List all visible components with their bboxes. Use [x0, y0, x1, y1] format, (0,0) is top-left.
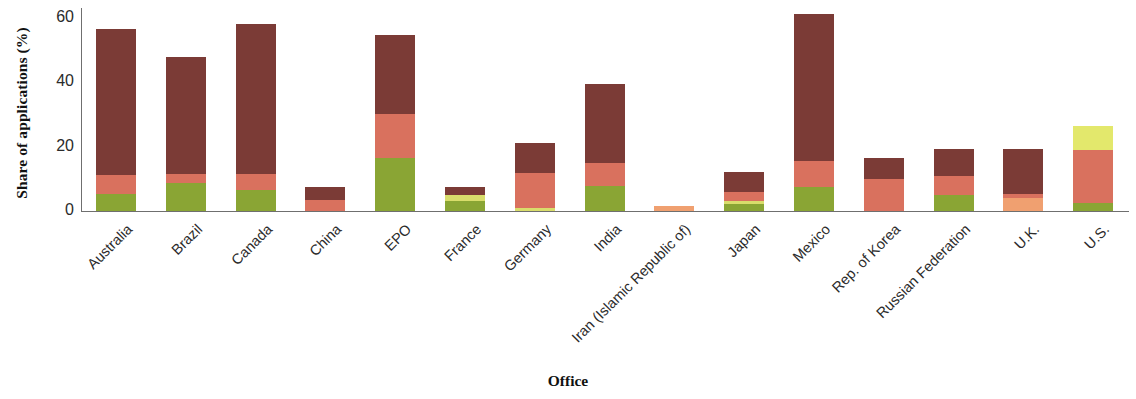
bar-iran-islamic-republic-of[interactable]	[654, 206, 694, 211]
stacked-bar-chart: Share of applications (%) 0204060 Austra…	[0, 0, 1136, 399]
bar-segment-4	[585, 163, 625, 186]
bar-segment-1	[166, 183, 206, 211]
bar-segment-5	[166, 57, 206, 174]
bar-segment-4	[375, 114, 415, 158]
x-tick-label: China	[307, 221, 345, 259]
x-axis-line	[81, 211, 1129, 212]
bar-segment-5	[934, 149, 974, 175]
bar-segment-5	[515, 143, 555, 173]
bar-germany[interactable]	[515, 143, 555, 211]
bar-segment-5	[864, 158, 904, 179]
x-tick-label: France	[441, 221, 484, 264]
bar-segment-1	[724, 204, 764, 211]
x-tick-label: EPO	[381, 221, 414, 254]
bar-segment-1	[585, 186, 625, 211]
bar-segment-4	[934, 176, 974, 195]
bar-segment-4	[864, 179, 904, 211]
bar-rep-of-korea[interactable]	[864, 158, 904, 211]
bar-u-k[interactable]	[1003, 149, 1043, 211]
bar-russian-federation[interactable]	[934, 149, 974, 211]
x-tick-label: Australia	[84, 221, 135, 272]
bar-segment-1	[236, 190, 276, 211]
y-tick-label: 60	[34, 9, 74, 25]
bar-canada[interactable]	[236, 24, 276, 211]
bar-japan[interactable]	[724, 172, 764, 211]
x-tick-label: Brazil	[168, 221, 205, 258]
bar-u-s[interactable]	[1073, 126, 1113, 211]
x-tick-label: U.K.	[1011, 221, 1042, 252]
x-tick-label: Mexico	[789, 221, 833, 265]
bar-france[interactable]	[445, 187, 485, 211]
bar-epo[interactable]	[375, 35, 415, 211]
x-tick-label: U.S.	[1081, 221, 1112, 252]
bar-segment-2	[654, 206, 694, 211]
x-tick-label: Rep. of Korea	[828, 221, 903, 296]
bar-segment-1	[375, 158, 415, 211]
bar-segment-1	[1073, 203, 1113, 211]
bar-segment-5	[585, 84, 625, 163]
bar-segment-5	[794, 14, 834, 161]
bar-segment-3	[515, 208, 555, 211]
bar-segment-4	[166, 174, 206, 183]
bar-segment-1	[794, 187, 834, 211]
bar-segment-4	[236, 174, 276, 190]
y-tick-label: 40	[34, 73, 74, 89]
bar-china[interactable]	[305, 187, 345, 211]
x-axis-title: Office	[0, 372, 1136, 390]
y-tick-label: 0	[34, 202, 74, 218]
bar-brazil[interactable]	[166, 57, 206, 211]
bar-australia[interactable]	[96, 29, 136, 211]
bar-india[interactable]	[585, 84, 625, 211]
bar-segment-5	[236, 24, 276, 173]
y-axis-title: Share of applications (%)	[13, 3, 31, 223]
bar-segment-5	[1003, 149, 1043, 193]
bar-segment-1	[445, 201, 485, 211]
bar-segment-4	[1073, 150, 1113, 203]
bar-segment-5	[724, 172, 764, 192]
bar-segment-5	[445, 187, 485, 195]
bar-segment-1	[934, 195, 974, 211]
bar-segment-1	[96, 194, 136, 211]
bar-segment-5	[96, 29, 136, 175]
x-tick-label: Germany	[501, 221, 554, 274]
bar-segment-5	[305, 187, 345, 200]
x-tick-label: Canada	[228, 221, 275, 268]
bar-segment-4	[515, 173, 555, 208]
bar-mexico[interactable]	[794, 14, 834, 211]
x-tick-label: India	[590, 221, 624, 255]
bar-segment-4	[96, 175, 136, 194]
bar-segment-4	[724, 192, 764, 200]
bar-segment-4	[794, 161, 834, 187]
bar-segment-6	[1073, 126, 1113, 150]
x-tick-label: Japan	[724, 221, 763, 260]
plot-area	[81, 8, 1128, 211]
bar-segment-2	[1003, 198, 1043, 211]
x-tick-label: Iran (Islamic Republic of)	[569, 221, 694, 346]
y-tick-label: 20	[34, 138, 74, 154]
y-axis-tick-labels: 0204060	[34, 0, 74, 399]
bar-segment-4	[305, 200, 345, 211]
bar-segment-5	[375, 35, 415, 114]
